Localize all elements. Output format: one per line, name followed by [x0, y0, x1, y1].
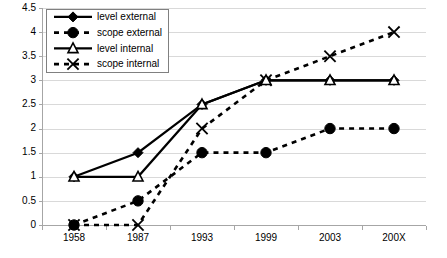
marker-circle — [68, 27, 78, 37]
x-tick-label: 1958 — [63, 232, 86, 243]
legend-label: level internal — [97, 43, 153, 54]
legend-label: level external — [97, 11, 156, 22]
x-axis: 19581987199319992003200X — [42, 226, 427, 243]
marker-circle — [261, 147, 271, 157]
y-tick-label: 1 — [30, 170, 36, 181]
y-tick-label: 3 — [30, 74, 36, 85]
y-axis: 00.511.522.533.544.5 — [22, 2, 42, 230]
marker-circle — [389, 123, 399, 133]
y-tick-label: 1.5 — [22, 146, 36, 157]
y-tick-label: 4.5 — [22, 2, 36, 13]
chart-container: 00.511.522.533.544.5 1958198719931999200… — [0, 0, 447, 258]
series-line — [74, 80, 394, 176]
x-tick-label: 2003 — [319, 232, 342, 243]
legend-label: scope external — [97, 27, 162, 38]
y-tick-label: 0.5 — [22, 195, 36, 206]
y-tick-label: 4 — [30, 26, 36, 37]
chart-legend: level externalscope externallevel intern… — [47, 10, 169, 73]
marker-circle — [325, 123, 335, 133]
legend-label: scope internal — [97, 58, 159, 69]
marker-circle — [133, 196, 143, 206]
x-tick-label: 200X — [382, 232, 406, 243]
y-tick-label: 0 — [30, 219, 36, 230]
marker-circle — [197, 147, 207, 157]
line-chart: 00.511.522.533.544.5 1958198719931999200… — [0, 0, 447, 258]
y-tick-label: 2.5 — [22, 98, 36, 109]
x-tick-label: 1999 — [255, 232, 278, 243]
y-tick-label: 2 — [30, 122, 36, 133]
x-tick-label: 1987 — [127, 232, 150, 243]
series-line — [74, 80, 394, 176]
x-tick-label: 1993 — [191, 232, 214, 243]
y-tick-label: 3.5 — [22, 50, 36, 61]
legend-item[interactable]: scope external — [54, 27, 162, 38]
